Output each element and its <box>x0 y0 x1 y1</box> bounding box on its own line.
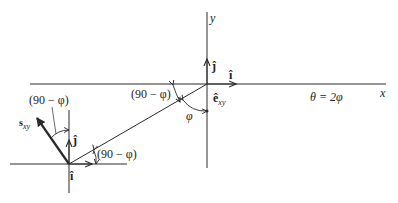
j-hat-label-lower: ĵ <box>73 134 77 146</box>
angle-tick-lower <box>93 150 94 154</box>
angle-arc-upper-left <box>51 130 69 138</box>
s-xy-label: sxy <box>19 116 30 131</box>
x-axis-label: x <box>380 87 385 99</box>
e-xy-label: êxy <box>213 92 225 107</box>
y-axis-label: y <box>210 12 215 24</box>
theta-relation: θ = 2φ <box>310 91 343 103</box>
angle-label-upper-left: (90 − φ) <box>29 94 69 106</box>
s-xy-arrow <box>37 118 69 164</box>
angle-arc-upper-mid <box>173 85 180 102</box>
s-subscript: xy <box>23 122 30 131</box>
e-subscript: xy <box>218 98 225 107</box>
angle-label-lower: (90 − φ) <box>97 148 137 160</box>
angle-arc-lower <box>94 151 96 164</box>
j-hat-label-origin: ĵ <box>212 60 216 72</box>
angle-label-phi: φ <box>186 110 193 122</box>
i-hat-label-origin: î <box>229 69 232 81</box>
angle-leader-upper-left <box>52 107 56 134</box>
phi-arc-endpoint <box>206 110 209 113</box>
angle-label-upper-mid: (90 − φ) <box>131 88 171 100</box>
i-hat-label-lower: î <box>70 170 73 182</box>
